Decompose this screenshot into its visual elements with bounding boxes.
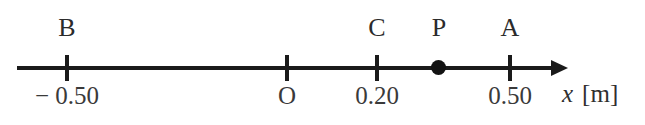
axis-caption: x[m] xyxy=(562,80,618,108)
value-label-c: 0.20 xyxy=(355,82,399,110)
point-label-p: P xyxy=(432,14,446,42)
point-label-b: B xyxy=(58,14,75,42)
tick-mark-c xyxy=(375,55,379,81)
origin-label-o: O xyxy=(278,82,296,110)
value-label-a: 0.50 xyxy=(488,82,532,110)
tick-mark-b xyxy=(65,55,69,81)
axis-unit-label: [m] xyxy=(582,80,618,107)
tick-mark-a xyxy=(508,55,512,81)
point-label-c: C xyxy=(368,14,385,42)
point-label-a: A xyxy=(501,14,520,42)
point-marker-p xyxy=(431,60,446,75)
axis-arrow-icon xyxy=(551,60,568,76)
axis-line xyxy=(17,66,562,70)
axis-variable-label: x xyxy=(562,80,573,107)
number-line-figure: B C P A − 0.50 O 0.20 0.50 x[m] xyxy=(0,0,645,125)
value-label-b: − 0.50 xyxy=(35,82,99,110)
tick-mark-o xyxy=(285,55,289,81)
